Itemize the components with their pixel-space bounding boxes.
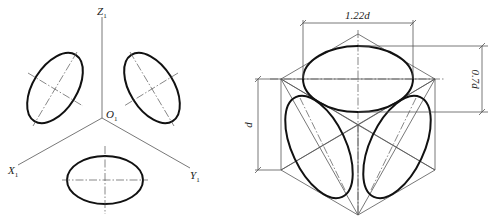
right-face-ellipse	[349, 86, 444, 209]
left-face-ellipse	[271, 86, 366, 209]
isometric-circles-diagram: Z1 O1 X1 Y1	[0, 0, 490, 223]
right-cube-figure: 1.22d 0.7d d	[242, 9, 488, 215]
dimension-label-right-height: 0.7d	[470, 69, 482, 89]
dimension-label-left-height: d	[242, 122, 254, 128]
left-plane-ellipse	[16, 43, 95, 132]
origin-label: O1	[106, 108, 118, 123]
right-plane-ellipse	[113, 43, 192, 132]
y-axis	[102, 118, 190, 168]
dimension-left-height: d	[242, 76, 281, 173]
top-plane-ellipse	[62, 146, 148, 214]
x-axis-label: X1	[7, 164, 19, 179]
y-axis-label: Y1	[190, 169, 200, 184]
left-axes-figure: Z1 O1 X1 Y1	[7, 5, 200, 214]
dimension-label-top-width: 1.22d	[345, 9, 370, 21]
